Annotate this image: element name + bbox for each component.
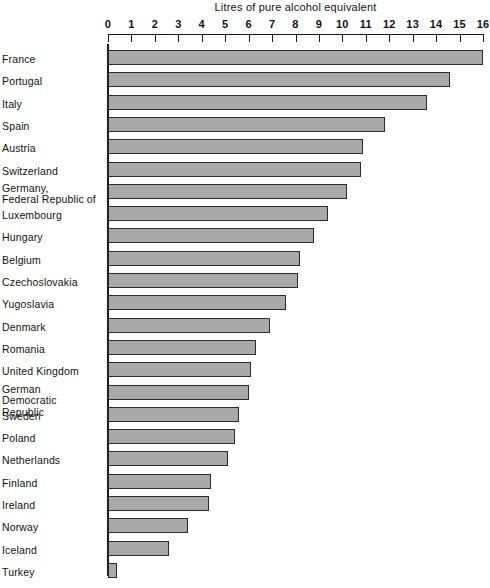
bar [108,295,286,310]
x-axis-tick-mark [436,34,437,42]
chart-row: Turkey [0,562,490,586]
x-axis-tick-label: 5 [215,18,235,30]
x-axis-tick-mark [202,34,203,42]
category-label-line: Spain [2,121,98,133]
category-label: Norway [2,517,98,534]
bar [108,385,249,400]
x-axis-tick-label: 12 [379,18,399,30]
bar [108,251,300,266]
plot-area: FrancePortugalItalySpainAustriaSwitzerla… [0,44,490,584]
x-axis-tick-mark [342,34,343,42]
chart-row: Yugoslavia [0,294,490,318]
category-label: Switzerland [2,161,98,178]
chart-row: Ireland [0,495,490,519]
bar [108,72,450,87]
chart-row: France [0,49,490,73]
category-label-line: German Democratic [2,384,98,407]
chart-row: Netherlands [0,450,490,474]
bar [108,541,169,556]
category-label-line: Ireland [2,500,98,512]
category-label: Spain [2,116,98,133]
x-axis-tick-mark [413,34,414,42]
bar [108,50,483,65]
x-axis-tick-label: 11 [356,18,376,30]
x-axis-tick-mark [108,34,109,42]
bar [108,407,239,422]
x-axis-tick-label: 6 [239,18,259,30]
bar [108,518,188,533]
chart-row: Belgium [0,250,490,274]
category-label: Finland [2,473,98,490]
chart-row: Czechoslovakia [0,272,490,296]
category-label: Austria [2,138,98,155]
category-label-line: Sweden [2,411,98,423]
category-label-line: Iceland [2,545,98,557]
category-label: Sweden [2,406,98,423]
category-label-line: Italy [2,99,98,111]
chart-row: Romania [0,339,490,363]
category-label-line: Belgium [2,255,98,267]
category-label: Hungary [2,227,98,244]
chart-row: Finland [0,473,490,497]
chart-title: Litres of pure alcohol equivalent [108,1,483,13]
x-axis-tick-mark [155,34,156,42]
category-label: Belgium [2,250,98,267]
category-label-line: France [2,54,98,66]
category-label-line: Finland [2,478,98,490]
category-label-line: Federal Republic of [2,194,98,206]
category-label: Poland [2,428,98,445]
category-label-line: Netherlands [2,455,98,467]
x-axis-tick-mark [296,34,297,42]
category-label: Netherlands [2,450,98,467]
chart-row: German DemocraticRepublic [0,384,490,408]
bar [108,318,270,333]
bar [108,340,256,355]
category-label-line: Switzerland [2,166,98,178]
chart-row: Luxembourg [0,205,490,229]
category-label: Yugoslavia [2,294,98,311]
chart-row: Denmark [0,317,490,341]
chart-row: Portugal [0,71,490,95]
category-label-line: Austria [2,143,98,155]
bar [108,184,347,199]
category-label-line: Yugoslavia [2,299,98,311]
bar [108,117,385,132]
bar [108,474,211,489]
bar [108,429,235,444]
chart-row: Norway [0,517,490,541]
chart-row: Sweden [0,406,490,430]
category-label: Ireland [2,495,98,512]
bar [108,206,328,221]
chart-row: Spain [0,116,490,140]
chart-row: Poland [0,428,490,452]
category-label: Czechoslovakia [2,272,98,289]
x-axis-tick-label: 14 [426,18,446,30]
bar [108,362,251,377]
chart-row: Hungary [0,227,490,251]
x-axis: 012345678910111213141516 [0,18,490,44]
category-label-line: Denmark [2,322,98,334]
category-label-line: Norway [2,522,98,534]
category-label-line: Czechoslovakia [2,277,98,289]
x-axis-tick-mark [366,34,367,42]
x-axis-tick-label: 4 [192,18,212,30]
bar [108,563,117,578]
bar [108,139,363,154]
x-axis-tick-label: 15 [450,18,470,30]
chart-row: Italy [0,94,490,118]
category-label-line: Hungary [2,232,98,244]
bar [108,162,361,177]
category-label: France [2,49,98,66]
bar [108,95,427,110]
bar [108,273,298,288]
x-axis-tick-mark [225,34,226,42]
category-label: Luxembourg [2,205,98,222]
x-axis-tick-label: 7 [262,18,282,30]
chart-row: Switzerland [0,161,490,185]
x-axis-tick-mark [460,34,461,42]
category-label: United Kingdom [2,361,98,378]
category-label-line: Luxembourg [2,210,98,222]
category-label: Portugal [2,71,98,88]
category-label: Turkey [2,562,98,579]
x-axis-tick-mark [483,34,484,42]
